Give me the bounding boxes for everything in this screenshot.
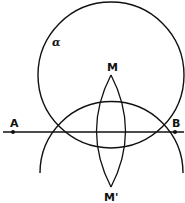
label-m-prime: M' [104, 191, 118, 203]
lower-arc [40, 102, 183, 173]
label-alpha: α [52, 36, 61, 49]
label-m: M [107, 61, 118, 74]
lens-left-arc [97, 75, 112, 187]
label-b: B [172, 117, 180, 130]
point-b-dot [173, 130, 177, 134]
label-a: A [10, 117, 19, 130]
geometry-diagram: α A B M M' [0, 0, 185, 203]
point-a-dot [11, 130, 15, 134]
lens-right-arc [111, 75, 126, 187]
